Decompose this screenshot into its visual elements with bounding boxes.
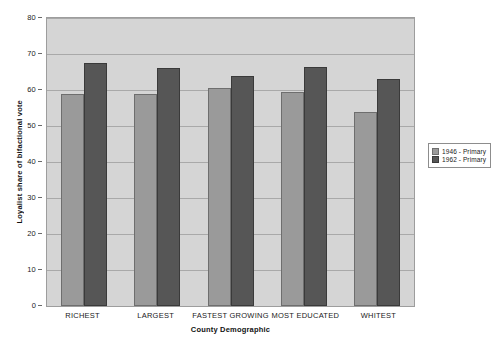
bar	[304, 67, 327, 306]
x-tick-label: MOST EDUCATED	[269, 311, 342, 320]
bar	[354, 112, 377, 306]
legend-entry: 1962 - Primary	[432, 156, 486, 163]
bar-group	[194, 18, 267, 306]
bar-group	[341, 18, 414, 306]
y-tick-label: 30	[27, 193, 36, 202]
legend-swatch-icon	[432, 156, 439, 163]
x-tick-label: RICHEST	[46, 311, 119, 320]
x-tick-label: WHITEST	[342, 311, 415, 320]
y-tick-label: 10	[27, 265, 36, 274]
x-tick-label: LARGEST	[119, 311, 192, 320]
y-tick-mark	[38, 305, 42, 306]
bar	[84, 63, 107, 306]
bar	[281, 92, 304, 306]
y-tick-mark	[38, 125, 42, 126]
legend-swatch-icon	[432, 148, 439, 155]
y-axis: 01020304050607080	[0, 17, 42, 307]
legend-label: 1962 - Primary	[442, 156, 486, 163]
plot-area	[46, 17, 415, 307]
y-tick-mark	[38, 161, 42, 162]
y-tick-mark	[38, 53, 42, 54]
x-tick-label: FASTEST GROWING	[192, 311, 269, 320]
y-tick-mark	[38, 197, 42, 198]
y-tick-mark	[38, 269, 42, 270]
y-tick-mark	[38, 89, 42, 90]
bar	[208, 88, 231, 306]
y-tick-label: 50	[27, 121, 36, 130]
y-tick-label: 60	[27, 85, 36, 94]
x-axis-title: County Demographic	[46, 325, 415, 334]
bar-group	[120, 18, 193, 306]
bar-chart: Loyalist share of bifactional vote 01020…	[0, 0, 494, 349]
bar	[157, 68, 180, 306]
y-tick-mark	[38, 17, 42, 18]
bar-group	[47, 18, 120, 306]
y-tick-label: 70	[27, 49, 36, 58]
legend-label: 1946 - Primary	[442, 148, 486, 155]
bar-group	[267, 18, 340, 306]
legend-entry: 1946 - Primary	[432, 148, 486, 155]
y-tick-label: 40	[27, 157, 36, 166]
legend: 1946 - Primary1962 - Primary	[428, 143, 491, 168]
bar	[231, 76, 254, 306]
x-axis: RICHESTLARGESTFASTEST GROWINGMOST EDUCAT…	[46, 311, 415, 320]
bar	[377, 79, 400, 306]
y-tick-mark	[38, 233, 42, 234]
y-tick-label: 80	[27, 13, 36, 22]
y-tick-label: 0	[32, 301, 36, 310]
y-tick-label: 20	[27, 229, 36, 238]
bar	[134, 94, 157, 306]
bars-layer	[47, 18, 414, 306]
bar	[61, 94, 84, 306]
